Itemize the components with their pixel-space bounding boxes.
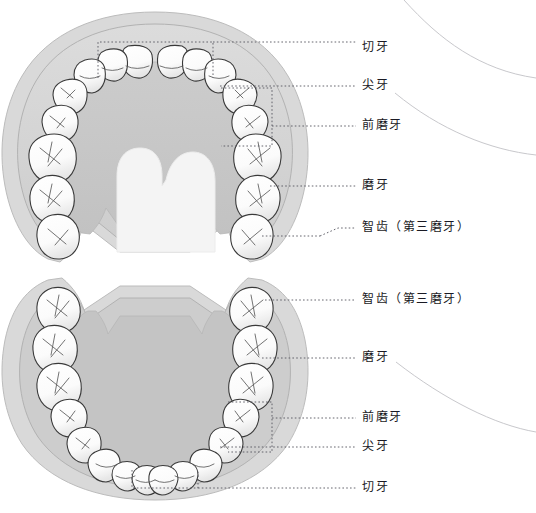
upper-jaw-maxillary-arch: [2, 12, 356, 262]
label-upper-canine: 尖牙: [362, 79, 389, 91]
label-upper-incisor: 切牙: [362, 41, 389, 53]
label-upper-premolar: 前磨牙: [362, 119, 403, 131]
label-upper-wisdom: 智齿（第三磨牙）: [362, 221, 470, 233]
dental-arch-diagram: [0, 0, 536, 513]
leader-upper-wisdom-bend: [320, 228, 356, 236]
lower-jaw-mandibular-arch: [2, 278, 356, 500]
label-lower-premolar: 前磨牙: [362, 411, 403, 423]
decorative-curves: [395, 0, 536, 432]
label-lower-canine: 尖牙: [362, 440, 389, 452]
tooth-upper-left-wisdom: [37, 214, 79, 259]
label-lower-wisdom: 智齿（第三磨牙）: [362, 293, 470, 305]
label-lower-molar: 磨牙: [362, 351, 389, 363]
label-lower-incisor: 切牙: [362, 481, 389, 493]
tooth-upper-right-wisdom: [231, 214, 273, 259]
label-upper-molar: 磨牙: [362, 179, 389, 191]
